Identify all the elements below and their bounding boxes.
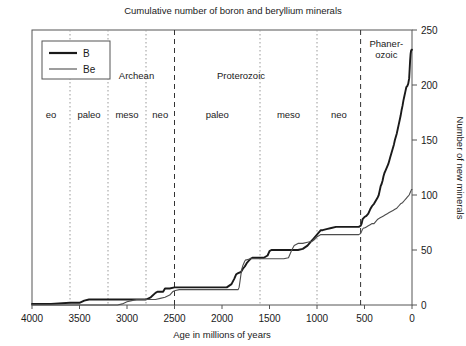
legend-box bbox=[42, 41, 110, 79]
eon-label-1: Proterozoic bbox=[217, 70, 265, 81]
x-tick-label-5: 1500 bbox=[258, 313, 281, 324]
x-tick-label-1: 3500 bbox=[68, 313, 91, 324]
x-tick-label-8: 0 bbox=[409, 313, 415, 324]
era-label-4: paleo bbox=[206, 109, 229, 120]
x-tick-label-6: 1000 bbox=[306, 313, 329, 324]
y-tick-label-2: 100 bbox=[421, 190, 438, 201]
y-tick-label-1: 50 bbox=[421, 245, 433, 256]
y-axis-label: Number of new minerals bbox=[455, 117, 466, 220]
y-tick-label-4: 200 bbox=[421, 80, 438, 91]
cumulative-minerals-chart: Cumulative number of boron and beryllium… bbox=[0, 0, 466, 346]
x-axis-label: Age in millions of years bbox=[173, 329, 271, 340]
x-tick-label-0: 4000 bbox=[21, 313, 44, 324]
era-label-1: paleo bbox=[77, 109, 100, 120]
era-label-6: neo bbox=[331, 109, 347, 120]
eon-label-0: Archean bbox=[119, 70, 154, 81]
x-tick-label-2: 3000 bbox=[116, 313, 139, 324]
era-label-5: meso bbox=[277, 109, 300, 120]
era-label-0: eo bbox=[46, 109, 57, 120]
x-tick-label-3: 2500 bbox=[163, 313, 186, 324]
y-tick-label-0: 0 bbox=[421, 300, 427, 311]
era-label-3: neo bbox=[152, 109, 168, 120]
legend-label-B: B bbox=[83, 48, 90, 59]
x-tick-label-7: 500 bbox=[356, 313, 373, 324]
chart-title: Cumulative number of boron and beryllium… bbox=[124, 5, 342, 16]
x-tick-label-4: 2000 bbox=[211, 313, 234, 324]
era-label-2: meso bbox=[115, 109, 138, 120]
legend-label-Be: Be bbox=[83, 64, 96, 75]
chart-legend[interactable]: BBe bbox=[42, 41, 110, 79]
y-tick-label-3: 150 bbox=[421, 135, 438, 146]
eon-label-2: Phaner- bbox=[369, 38, 403, 49]
y-tick-label-5: 250 bbox=[421, 25, 438, 36]
chart-container: Cumulative number of boron and beryllium… bbox=[0, 0, 466, 346]
eon-label-3: ozoic bbox=[375, 49, 397, 60]
